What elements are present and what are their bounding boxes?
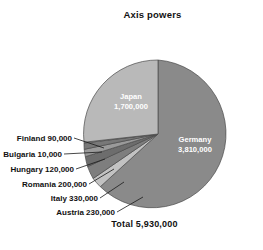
callout-hungary: Hungary 120,000	[10, 165, 74, 174]
callout-austria: Austria 230,000	[56, 208, 115, 217]
callout-italy: Italy 330,000	[51, 194, 99, 203]
pie-slices	[84, 60, 226, 208]
pie-chart-figure: Axis powers	[0, 0, 263, 250]
pie-chart-canvas: Germany 3,810,000 Japan 1,700,000 Finlan…	[0, 0, 263, 250]
germany-slice-value: 3,810,000	[178, 145, 212, 154]
chart-total: Total 5,930,000	[0, 219, 263, 229]
pie-svg: Germany 3,810,000 Japan 1,700,000 Finlan…	[0, 0, 263, 250]
callout-romania: Romania 200,000	[22, 180, 87, 189]
japan-slice-value: 1,700,000	[114, 102, 148, 111]
japan-slice-name: Japan	[120, 92, 142, 101]
callout-finland: Finland 90,000	[17, 134, 73, 143]
germany-slice-name: Germany	[179, 135, 213, 144]
callout-bulgaria: Bulgaria 10,000	[3, 150, 62, 159]
